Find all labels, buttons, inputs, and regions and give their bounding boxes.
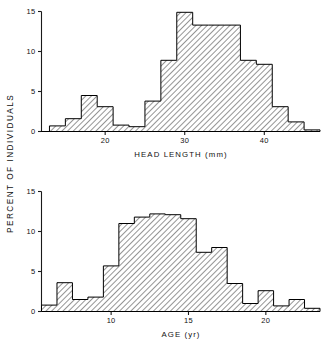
histogram-bars — [42, 214, 321, 312]
y-tick-label: 0 — [31, 307, 35, 316]
chart-head-length: 051015203040HEAD LENGTH (mm) — [27, 7, 320, 158]
y-tick-label: 15 — [27, 187, 36, 196]
y-tick-label: 10 — [27, 47, 36, 56]
y-tick-label: 5 — [31, 87, 35, 96]
chart-age: 051015101520AGE (yr) — [27, 187, 320, 338]
x-tick-label: 10 — [107, 316, 116, 325]
x-tick-label: 40 — [260, 136, 269, 145]
y-tick-label: 0 — [31, 127, 35, 136]
x-tick-label: 20 — [261, 316, 270, 325]
x-tick-label: 20 — [101, 136, 110, 145]
y-axis-label: PERCENT OF INDIVIDUALS — [6, 94, 15, 233]
histogram-bars — [42, 12, 321, 131]
y-tick-label: 15 — [27, 7, 36, 16]
y-axis-label-text: PERCENT OF INDIVIDUALS — [6, 94, 15, 233]
figure-container: PERCENT OF INDIVIDUALS 051015203040HEAD … — [0, 0, 326, 344]
y-tick-label: 5 — [31, 267, 35, 276]
x-tick-label: 30 — [180, 136, 189, 145]
x-axis-title: AGE (yr) — [161, 330, 200, 339]
y-tick-label: 10 — [27, 227, 36, 236]
histogram-figure: PERCENT OF INDIVIDUALS 051015203040HEAD … — [0, 0, 326, 344]
x-tick-label: 15 — [184, 316, 193, 325]
x-axis-title: HEAD LENGTH (mm) — [134, 150, 227, 159]
